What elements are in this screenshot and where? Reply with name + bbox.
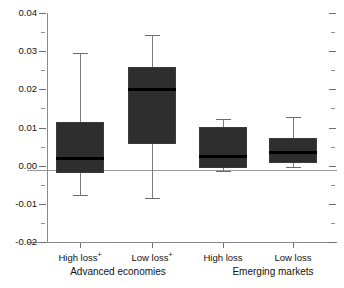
y-tick-major xyxy=(39,204,46,205)
median-line xyxy=(269,151,317,154)
y-axis-label: -0.01 xyxy=(0,199,37,209)
y-tick-minor-right xyxy=(331,32,335,33)
y-tick-minor xyxy=(41,185,45,186)
x-tick xyxy=(80,243,81,248)
whisker-cap-lower xyxy=(145,198,160,199)
whisker-lower xyxy=(152,144,153,199)
y-tick-major xyxy=(39,242,46,243)
category-label-1-text: High loss xyxy=(58,252,97,263)
category-label-3-text: High loss xyxy=(203,252,242,263)
y-axis-label: 0.01 xyxy=(0,123,37,133)
box-iqr xyxy=(128,67,176,143)
x-tick xyxy=(152,243,153,248)
category-label-4-text: Low loss xyxy=(275,252,312,263)
y-tick-minor xyxy=(41,223,45,224)
y-tick-minor xyxy=(41,70,45,71)
y-tick-minor-right xyxy=(331,70,335,71)
box-iqr xyxy=(56,122,104,174)
whisker-cap-upper xyxy=(286,117,301,118)
y-tick-minor xyxy=(41,108,45,109)
whisker-cap-lower xyxy=(286,167,301,168)
y-tick-minor xyxy=(41,147,45,148)
y-axis-label: 0.03 xyxy=(0,46,37,56)
box-iqr xyxy=(199,127,247,167)
whisker-lower xyxy=(80,173,81,195)
median-line xyxy=(56,157,104,160)
group-label-emerging-markets: Emerging markets xyxy=(175,266,344,277)
whisker-upper xyxy=(80,53,81,122)
y-tick-minor xyxy=(41,32,45,33)
y-axis-label: 0.04 xyxy=(0,8,37,18)
y-tick-minor-right xyxy=(331,223,335,224)
y-tick-major-right xyxy=(329,89,336,90)
y-tick-major-right xyxy=(329,13,336,14)
y-tick-major xyxy=(39,51,46,52)
whisker-cap-upper xyxy=(216,119,231,120)
y-tick-major xyxy=(39,128,46,129)
whisker-cap-upper xyxy=(145,35,160,36)
category-label-2-text: Low loss xyxy=(131,252,168,263)
whisker-upper xyxy=(152,35,153,67)
whisker-upper xyxy=(293,117,294,138)
whisker-cap-lower xyxy=(73,195,88,196)
y-axis-label: -0.02 xyxy=(0,237,37,247)
y-tick-minor-right xyxy=(331,185,335,186)
y-tick-major xyxy=(39,89,46,90)
category-label-4: Low loss xyxy=(245,252,341,263)
y-axis-label: 0.00 xyxy=(0,161,37,171)
y-tick-major-right xyxy=(329,166,336,167)
whisker-cap-lower xyxy=(216,171,231,172)
x-axis-line xyxy=(27,242,337,243)
y-tick-minor-right xyxy=(331,147,335,148)
boxplot-chart: 0.040.030.020.010.00-0.01-0.02 High loss… xyxy=(0,0,344,288)
y-tick-major-right xyxy=(329,51,336,52)
median-line xyxy=(199,155,247,158)
whisker-cap-upper xyxy=(73,53,88,54)
y-tick-major xyxy=(39,166,46,167)
y-axis-line xyxy=(47,13,48,243)
y-tick-major xyxy=(39,13,46,14)
y-tick-minor-right xyxy=(331,108,335,109)
x-tick xyxy=(293,243,294,248)
y-tick-major-right xyxy=(329,128,336,129)
median-line xyxy=(128,88,176,91)
y-tick-major-right xyxy=(329,242,336,243)
x-tick xyxy=(223,243,224,248)
y-axis-label: 0.02 xyxy=(0,84,37,94)
category-label-2-marker: + xyxy=(168,251,172,258)
category-label-1-marker: + xyxy=(97,251,101,258)
y-tick-major-right xyxy=(329,204,336,205)
whisker-upper xyxy=(223,119,224,127)
